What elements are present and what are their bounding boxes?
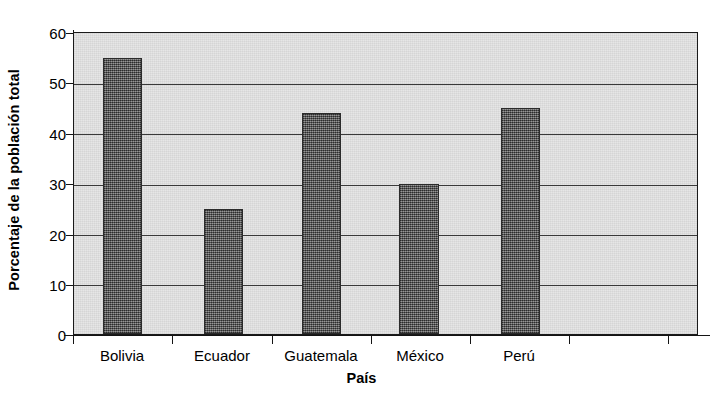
gridline-30 (74, 185, 697, 186)
bar-bolivia (103, 58, 142, 334)
x-axis-line (64, 335, 710, 336)
x-axis-title: País (0, 370, 723, 386)
x-tick-mark-0 (73, 335, 74, 344)
y-tick-label-30: 30 (30, 177, 66, 192)
y-tick-mark-40 (66, 134, 73, 135)
bar-peru (501, 108, 540, 334)
y-tick-mark-50 (66, 83, 73, 84)
x-tick-mark-5 (569, 335, 570, 344)
y-axis-tick-labels: 0 10 20 30 40 50 60 (30, 0, 66, 394)
y-axis-title-text: Porcentaje de la población total (6, 69, 22, 291)
x-tick-mark-1 (172, 335, 173, 344)
y-tick-label-0: 0 (30, 328, 66, 343)
y-tick-label-50: 50 (30, 76, 66, 91)
y-tick-mark-60 (66, 33, 73, 34)
x-tick-label-ecuador: Ecuador (194, 347, 250, 365)
plot-area (73, 32, 698, 335)
x-tick-label-mexico: México (396, 347, 444, 365)
gridline-40 (74, 134, 697, 135)
y-tick-mark-20 (66, 235, 73, 236)
y-tick-label-60: 60 (30, 25, 66, 40)
bar-ecuador (204, 209, 243, 334)
x-tick-label-guatemala: Guatemala (284, 347, 357, 365)
x-tick-mark-2 (272, 335, 273, 344)
bar-chart-figure: Porcentaje de la población total 0 10 20… (0, 0, 723, 394)
gridline-10 (74, 285, 697, 286)
bar-guatemala (302, 113, 341, 334)
gridline-20 (74, 235, 697, 236)
plot-background-texture (74, 33, 697, 334)
gridline-50 (74, 84, 697, 85)
y-axis-title: Porcentaje de la población total (0, 0, 28, 360)
y-tick-mark-10 (66, 285, 73, 286)
x-tick-label-bolivia: Bolivia (100, 347, 144, 365)
y-tick-mark-30 (66, 184, 73, 185)
bar-mexico (399, 184, 439, 335)
x-tick-mark-6 (668, 335, 669, 344)
y-tick-label-20: 20 (30, 227, 66, 242)
y-tick-label-10: 10 (30, 277, 66, 292)
y-tick-label-40: 40 (30, 126, 66, 141)
x-tick-label-peru: Perú (503, 347, 535, 365)
x-tick-mark-4 (470, 335, 471, 344)
x-tick-mark-3 (371, 335, 372, 344)
